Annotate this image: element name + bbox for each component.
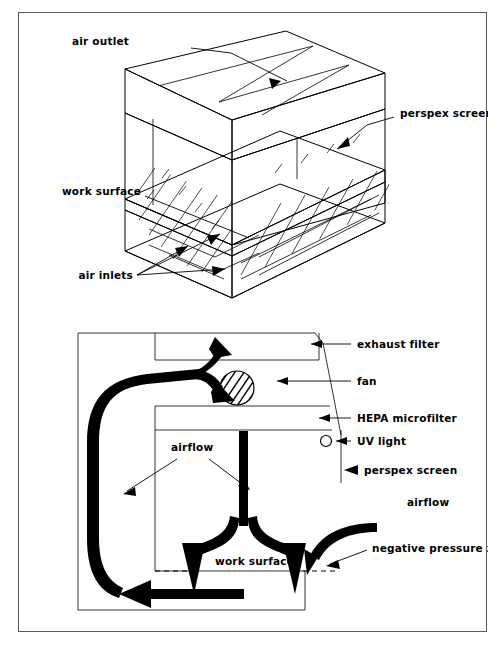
label-air-outlet: air outlet bbox=[72, 35, 129, 47]
label-airflow-inner: airflow bbox=[171, 441, 213, 453]
label-negative-pressure-zone: negative pressure zone bbox=[372, 542, 488, 554]
inlet-airflow-path bbox=[304, 523, 377, 575]
negative-pressure-leader bbox=[326, 550, 367, 569]
fan-symbol bbox=[217, 368, 261, 409]
label-work-surface: work surface bbox=[62, 185, 141, 197]
perspex-screen-body bbox=[125, 109, 385, 245]
label-fan: fan bbox=[357, 375, 377, 387]
label-uv-light: UV light bbox=[357, 435, 406, 447]
label-perspex-screen: perspex screen bbox=[400, 107, 488, 119]
recirculating-airflow-path bbox=[87, 369, 244, 608]
page-border-frame: air outlet perspex screen work surface bbox=[18, 12, 487, 632]
uv-light-leader bbox=[336, 437, 351, 445]
label-airflow-outer: airflow bbox=[407, 496, 449, 508]
label-exhaust-filter: exhaust filter bbox=[357, 338, 440, 350]
label-work-surface-bottom: work surface bbox=[215, 555, 294, 567]
cross-section-diagram: exhaust filter fan HEPA microfilter UV l… bbox=[19, 313, 488, 643]
isometric-cabinet-diagram: air outlet perspex screen work surface bbox=[19, 13, 488, 313]
air-outlet-leader bbox=[191, 48, 287, 81]
exhaust-branch-arrow bbox=[195, 337, 232, 376]
fan-leader bbox=[277, 377, 351, 385]
cabinet-slant-wall bbox=[323, 343, 341, 435]
hepa-microfilter-leader bbox=[319, 414, 351, 422]
screen-interior-edge bbox=[153, 119, 297, 205]
exhaust-filter-chamber bbox=[155, 333, 319, 360]
perspex-hatch-right bbox=[241, 155, 415, 275]
work-surface-leader bbox=[145, 196, 249, 238]
perspex-screen-leader-2 bbox=[344, 465, 358, 475]
hepa-filter-chamber bbox=[155, 406, 332, 430]
downflow-column bbox=[182, 431, 306, 594]
glass-sparkle-ticks bbox=[147, 134, 360, 229]
air-outlet-grille bbox=[158, 46, 349, 115]
exhaust-filter-leader bbox=[311, 340, 351, 348]
inlet-slab bbox=[125, 182, 385, 298]
airflow-inner-leaders bbox=[123, 459, 250, 496]
figure-page: air outlet perspex screen work surface bbox=[0, 0, 503, 645]
label-hepa-microfilter: HEPA microfilter bbox=[357, 412, 458, 424]
label-perspex-screen-bottom: perspex screen bbox=[364, 464, 457, 476]
label-air-inlets: air inlets bbox=[78, 269, 133, 281]
uv-light-symbol bbox=[321, 436, 332, 447]
